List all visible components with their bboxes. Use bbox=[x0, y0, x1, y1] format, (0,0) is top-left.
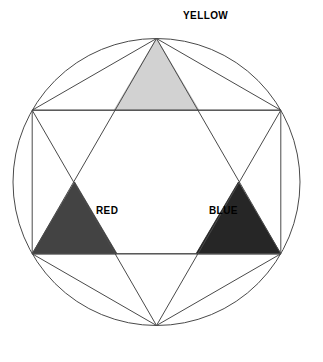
label-yellow: YELLOW bbox=[183, 11, 228, 21]
diagram-canvas: YELLOW RED BLUE bbox=[0, 0, 323, 362]
label-blue: BLUE bbox=[209, 206, 238, 216]
label-red: RED bbox=[96, 206, 118, 216]
hexagram-diagram bbox=[0, 0, 323, 362]
